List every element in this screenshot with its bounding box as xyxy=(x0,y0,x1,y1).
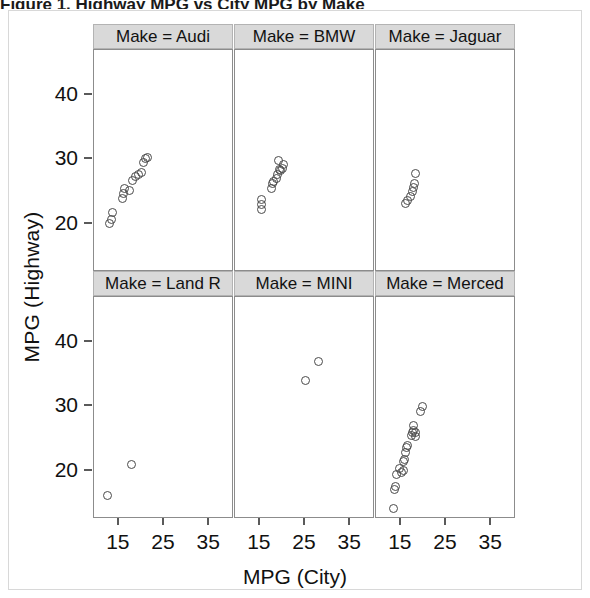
x-tick-mark xyxy=(444,518,446,525)
x-tick-label: 25 xyxy=(425,531,465,552)
x-tick-mark xyxy=(162,518,164,525)
x-tick-label: 25 xyxy=(284,531,324,552)
y-tick-mark xyxy=(84,469,92,471)
panel-make-merced: Make = Merced xyxy=(375,271,515,518)
data-point xyxy=(389,504,398,513)
panel-row-1: Make = Land RMake = MINIMake = Merced xyxy=(93,271,515,518)
data-point xyxy=(314,357,323,366)
panel-make-bmw: Make = BMW xyxy=(234,24,374,271)
x-tick-label: 35 xyxy=(329,531,369,552)
y-tick-label: 30 xyxy=(34,394,78,415)
y-axis: 203040203040 xyxy=(0,0,93,598)
x-tick-label: 15 xyxy=(239,531,279,552)
data-point xyxy=(409,421,418,430)
panel-make-land-r: Make = Land R xyxy=(93,271,233,518)
data-point xyxy=(137,168,146,177)
panel-strip-label: Make = BMW xyxy=(234,24,374,49)
panel-strip-label: Make = MINI xyxy=(234,271,374,296)
panel-strip-label: Make = Audi xyxy=(93,24,233,49)
data-point xyxy=(391,482,400,491)
panel-plot-area xyxy=(234,49,374,271)
y-tick-label: 30 xyxy=(34,147,78,168)
y-tick-mark xyxy=(84,157,92,159)
y-tick-label: 40 xyxy=(34,330,78,351)
x-tick-mark xyxy=(207,518,209,525)
x-tick-label: 15 xyxy=(98,531,138,552)
panel-grid: Make = AudiMake = BMWMake = JaguarMake =… xyxy=(93,24,515,518)
x-tick-mark xyxy=(489,518,491,525)
panel-make-mini: Make = MINI xyxy=(234,271,374,518)
panel-plot-area xyxy=(234,296,374,518)
panel-make-jaguar: Make = Jaguar xyxy=(375,24,515,271)
data-point xyxy=(418,402,427,411)
x-tick-mark xyxy=(348,518,350,525)
data-point xyxy=(279,160,288,169)
y-tick-label: 40 xyxy=(34,83,78,104)
panel-plot-area xyxy=(375,296,515,518)
data-point xyxy=(403,441,412,450)
data-point xyxy=(103,491,112,500)
data-point xyxy=(257,195,266,204)
data-point xyxy=(127,460,136,469)
y-tick-mark xyxy=(84,93,92,95)
x-tick-mark xyxy=(258,518,260,525)
panel-plot-area xyxy=(93,49,233,271)
x-tick-label: 15 xyxy=(380,531,420,552)
data-point xyxy=(301,376,310,385)
x-tick-mark xyxy=(117,518,119,525)
y-tick-mark xyxy=(84,340,92,342)
data-point xyxy=(399,466,408,475)
panel-strip-label: Make = Merced xyxy=(375,271,515,296)
data-point xyxy=(143,153,152,162)
y-tick-mark xyxy=(84,404,92,406)
x-axis: 152535152535152535 xyxy=(93,518,515,564)
panel-plot-area xyxy=(93,296,233,518)
data-point xyxy=(411,432,420,441)
data-point xyxy=(410,179,419,188)
x-tick-mark xyxy=(303,518,305,525)
x-tick-mark xyxy=(399,518,401,525)
y-tick-label: 20 xyxy=(34,459,78,480)
y-tick-mark xyxy=(84,222,92,224)
panel-strip-label: Make = Land R xyxy=(93,271,233,296)
panel-make-audi: Make = Audi xyxy=(93,24,233,271)
x-tick-label: 25 xyxy=(143,531,183,552)
x-tick-label: 35 xyxy=(188,531,228,552)
data-point xyxy=(411,169,420,178)
y-tick-label: 20 xyxy=(34,212,78,233)
data-point xyxy=(125,186,134,195)
panel-row-0: Make = AudiMake = BMWMake = Jaguar xyxy=(93,24,515,271)
panel-plot-area xyxy=(375,49,515,271)
data-point xyxy=(108,208,117,217)
panel-strip-label: Make = Jaguar xyxy=(375,24,515,49)
x-tick-label: 35 xyxy=(470,531,510,552)
